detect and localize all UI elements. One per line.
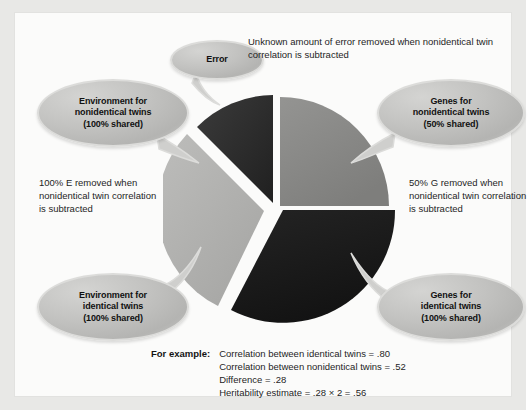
example-lines: Correlation between identical twins = .8…: [219, 347, 406, 399]
callout-genes-identical[interactable]: Genes foridentical twins(100% shared): [377, 273, 525, 341]
callout-genes-nonidentical-label: Genes fornonidentical twins(50% shared): [409, 96, 494, 131]
annotation-left: 100% E removed when nonidentical twin co…: [39, 176, 164, 216]
example-label: For example:: [151, 347, 219, 360]
example-line: Correlation between nonidentical twins =…: [219, 360, 406, 373]
pie-slice-genes-nonidentical: [280, 97, 389, 206]
annotation-top: Unknown amount of error removed when non…: [248, 35, 498, 61]
callout-environment-nonidentical[interactable]: Environment fornonidentical twins(100% s…: [37, 79, 189, 147]
callout-genes-identical-label: Genes foridentical twins(100% shared): [417, 290, 486, 325]
callout-genes-nonidentical[interactable]: Genes fornonidentical twins(50% shared): [377, 79, 525, 147]
example-line: Correlation between identical twins = .8…: [219, 347, 406, 360]
annotation-right: 50% G removed when nonidentical twin cor…: [409, 176, 532, 216]
pie-chart: [163, 79, 399, 331]
example-line: Difference = .28: [219, 373, 406, 386]
example-block: For example: Correlation between identic…: [151, 347, 406, 399]
callout-environment-nonidentical-label: Environment fornonidentical twins(100% s…: [71, 96, 156, 131]
callout-environment-identical-label: Environment foridentical twins(100% shar…: [75, 290, 151, 325]
figure-panel: Error Environment fornonidentical twins(…: [14, 12, 512, 397]
callout-error-label: Error: [202, 54, 232, 66]
example-line: Heritability estimate = .28 × 2 = .56: [219, 386, 406, 399]
callout-environment-identical[interactable]: Environment foridentical twins(100% shar…: [37, 273, 189, 341]
